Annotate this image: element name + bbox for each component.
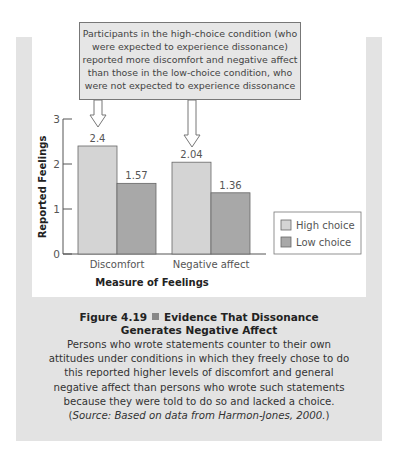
data-label: 1.36 <box>219 180 241 191</box>
data-label: 1.57 <box>125 170 147 181</box>
caption-line: Persons who wrote statements counter to … <box>16 338 382 352</box>
callout-line: were expected to experience dissonance) <box>80 40 300 53</box>
callout-arrow-discomfort <box>90 100 106 127</box>
y-tick-label: 1 <box>53 203 60 215</box>
callout-line: were not expected to experience dissonan… <box>80 79 300 92</box>
callout-line: Participants in the high-choice conditio… <box>80 27 300 40</box>
figure-label: Figure 4.19 <box>79 311 147 323</box>
bar-high-choice <box>172 162 211 254</box>
x-tick-label: Negative affect <box>173 259 250 270</box>
y-tick-label: 3 <box>53 113 60 125</box>
caption-line: because they were told to do so and lack… <box>16 395 382 409</box>
caption-line: attitudes under conditions in which they… <box>16 352 382 366</box>
bar-low-choice <box>117 183 156 254</box>
bar-high-choice <box>78 146 117 254</box>
data-label: 2.4 <box>90 133 106 144</box>
caption-body: Persons who wrote statements counter to … <box>16 338 382 423</box>
x-tick-label: Discomfort <box>90 259 145 270</box>
x-axis-label: Measure of Feelings <box>95 277 209 288</box>
callout-line: than those in the low-choice condition, … <box>80 66 300 79</box>
legend-label: Low choice <box>296 237 351 248</box>
legend-label: High choice <box>296 220 355 231</box>
data-label: 2.04 <box>180 149 202 160</box>
caption-line: negative affect than persons who wrote s… <box>16 381 382 395</box>
legend-swatch <box>281 220 291 230</box>
figure-caption: Figure 4.19Evidence That Dissonance Gene… <box>16 311 382 423</box>
bar-low-choice <box>211 193 250 254</box>
callout-line: reported more discomfort and negative af… <box>80 53 300 66</box>
y-axis-label: Reported Feelings <box>37 136 48 239</box>
caption-title: Figure 4.19Evidence That Dissonance <box>16 311 382 324</box>
square-bullet-icon <box>152 313 159 320</box>
y-tick-label: 0 <box>53 248 60 260</box>
caption-title-line1: Evidence That Dissonance <box>164 311 319 323</box>
callout-arrow-negative-affect <box>184 100 200 147</box>
caption-source: (Source: Based on data from Harmon-Jones… <box>16 409 382 423</box>
caption-title-line2: Generates Negative Affect <box>16 324 382 337</box>
caption-line: this reported higher levels of discomfor… <box>16 366 382 380</box>
legend-swatch <box>281 237 291 247</box>
y-tick-label: 2 <box>53 158 60 170</box>
callout-box: Participants in the high-choice conditio… <box>79 22 301 100</box>
